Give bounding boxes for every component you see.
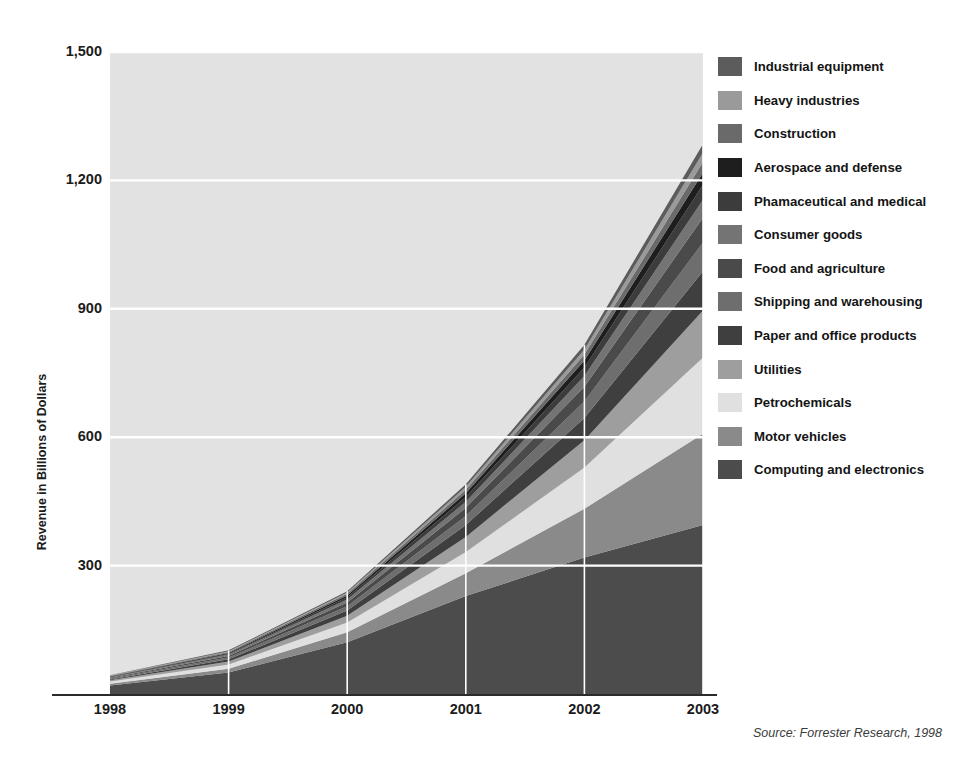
legend-item-label: Heavy industries [754, 93, 860, 108]
y-tick-label: 1,500 [40, 43, 102, 59]
legend-item-label: Food and agriculture [754, 261, 885, 276]
legend-item-label: Industrial equipment [754, 59, 884, 74]
legend-swatch-icon [718, 460, 742, 479]
legend-item[interactable]: Phamaceutical and medical [718, 184, 953, 218]
legend-item-label: Computing and electronics [754, 462, 924, 477]
legend-swatch-icon [718, 292, 742, 311]
legend-swatch-icon [718, 225, 742, 244]
legend-item-label: Petrochemicals [754, 395, 852, 410]
legend-swatch-icon [718, 91, 742, 110]
legend-item[interactable]: Petrochemicals [718, 386, 953, 420]
y-tick-label: 900 [40, 300, 102, 316]
legend-swatch-icon [718, 326, 742, 345]
legend-swatch-icon [718, 360, 742, 379]
legend-item-label: Utilities [754, 362, 802, 377]
y-axis-title: Revenue in Billions of Dollars [35, 347, 49, 577]
legend-item[interactable]: Computing and electronics [718, 453, 953, 487]
legend-item[interactable]: Aerospace and defense [718, 151, 953, 185]
legend-item[interactable]: Food and agriculture [718, 252, 953, 286]
x-tick-label: 2002 [544, 701, 624, 717]
chart-legend: Industrial equipmentHeavy industriesCons… [718, 50, 953, 487]
legend-item[interactable]: Paper and office products [718, 319, 953, 353]
legend-item-label: Shipping and warehousing [754, 294, 923, 309]
legend-item-label: Construction [754, 126, 836, 141]
legend-item-label: Aerospace and defense [754, 160, 902, 175]
x-tick-label: 1999 [189, 701, 269, 717]
legend-item[interactable]: Construction [718, 117, 953, 151]
x-axis-line [52, 694, 717, 696]
legend-item-label: Phamaceutical and medical [754, 194, 926, 209]
legend-swatch-icon [718, 393, 742, 412]
legend-item-label: Consumer goods [754, 227, 862, 242]
legend-item[interactable]: Shipping and warehousing [718, 285, 953, 319]
legend-item[interactable]: Utilities [718, 352, 953, 386]
legend-swatch-icon [718, 124, 742, 143]
legend-swatch-icon [718, 259, 742, 278]
chart-figure: 3006009001,2001,500 19981999200020012002… [0, 0, 956, 763]
source-note: Source: Forrester Research, 1998 [753, 726, 942, 740]
y-tick-label: 300 [40, 557, 102, 573]
x-tick-label: 1998 [70, 701, 150, 717]
x-tick-label: 2001 [426, 701, 506, 717]
y-tick-label: 600 [40, 428, 102, 444]
legend-swatch-icon [718, 57, 742, 76]
legend-item[interactable]: Consumer goods [718, 218, 953, 252]
legend-item[interactable]: Heavy industries [718, 84, 953, 118]
x-tick-label: 2003 [663, 701, 743, 717]
plot-area [110, 52, 703, 694]
legend-swatch-icon [718, 427, 742, 446]
legend-item-label: Paper and office products [754, 328, 917, 343]
x-tick-label: 2000 [307, 701, 387, 717]
stacked-area-svg [110, 52, 703, 694]
legend-item-label: Motor vehicles [754, 429, 846, 444]
y-tick-label: 1,200 [40, 171, 102, 187]
legend-item[interactable]: Motor vehicles [718, 420, 953, 454]
legend-swatch-icon [718, 158, 742, 177]
legend-swatch-icon [718, 192, 742, 211]
legend-item[interactable]: Industrial equipment [718, 50, 953, 84]
